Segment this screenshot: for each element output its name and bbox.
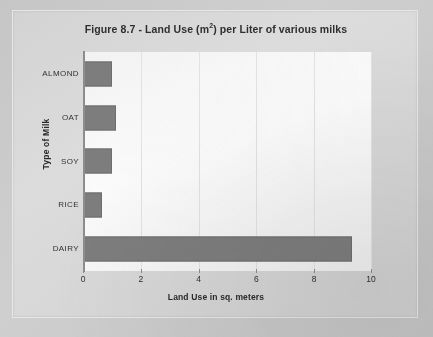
y-axis-title: Type of Milk (41, 99, 51, 189)
bar-row (83, 183, 372, 227)
value-axis-line (83, 51, 85, 272)
category-label-almond: ALMOND (42, 52, 79, 96)
x-tick-8: 8 (312, 274, 317, 284)
bar-dairy[interactable] (83, 237, 352, 262)
x-tick-6: 6 (254, 274, 259, 284)
x-axis-title: Land Use in sq. meters (13, 292, 419, 302)
x-tick-4: 4 (196, 274, 201, 284)
x-tick-10: 10 (366, 274, 375, 284)
chart-title: Figure 8.7 - Land Use (m2) per Liter of … (13, 22, 419, 35)
plot-area (83, 52, 372, 271)
x-tick-mark (199, 269, 200, 273)
x-tick-2: 2 (138, 274, 143, 284)
x-tick-mark (314, 269, 315, 273)
bar-row (83, 140, 372, 184)
x-tick-mark (83, 269, 84, 273)
value-axis-ticks: 0 2 4 6 8 10 (83, 274, 372, 288)
bar-soy[interactable] (83, 149, 112, 174)
bar-row (83, 96, 372, 140)
chart-title-prefix: Figure 8.7 - Land Use (m (85, 23, 209, 35)
category-label-oat: OAT (62, 96, 79, 140)
category-label-soy: SOY (61, 140, 79, 184)
bar-rice[interactable] (83, 193, 102, 218)
x-tick-mark (256, 269, 257, 273)
category-label-rice: RICE (58, 183, 79, 227)
x-tick-0: 0 (81, 274, 86, 284)
bar-almond[interactable] (83, 61, 112, 86)
scanned-page: Figure 8.7 - Land Use (m2) per Liter of … (0, 0, 433, 337)
figure-frame: Figure 8.7 - Land Use (m2) per Liter of … (12, 10, 418, 318)
category-label-dairy: DAIRY (53, 227, 79, 271)
x-tick-mark (371, 269, 372, 273)
chart-title-suffix: ) per Liter of various milks (213, 23, 347, 35)
bar-oat[interactable] (83, 105, 116, 130)
bar-row (83, 227, 372, 271)
x-tick-mark (141, 269, 142, 273)
bar-row (83, 52, 372, 96)
